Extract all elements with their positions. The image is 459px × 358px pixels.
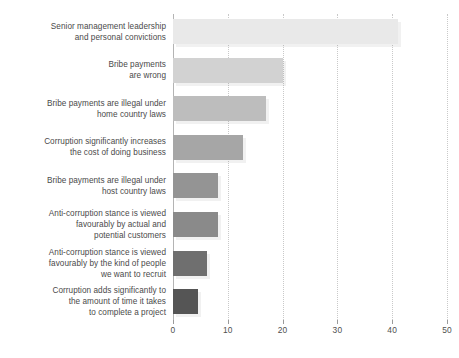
x-axis: 01020304050 [173, 320, 447, 344]
x-tick-mark [228, 320, 229, 324]
category-label: Senior management leadership and persona… [4, 21, 166, 43]
x-tick-label: 10 [223, 325, 233, 335]
bar-row [173, 58, 447, 83]
category-label: Corruption adds significantly to the amo… [4, 285, 166, 318]
bar [173, 58, 283, 83]
category-label: Bribe payments are wrong [4, 59, 166, 81]
bar [173, 251, 207, 276]
bar [173, 96, 266, 121]
bar-row [173, 212, 447, 237]
x-tick-label: 40 [387, 325, 397, 335]
x-tick-label: 20 [278, 325, 288, 335]
x-tick-mark [447, 320, 448, 324]
x-tick-label: 0 [171, 325, 176, 335]
bar-row [173, 173, 447, 198]
category-label: Anti-corruption stance is viewed favoura… [4, 208, 166, 241]
x-tick-label: 30 [333, 325, 343, 335]
bar-row [173, 19, 447, 44]
bar-row [173, 289, 447, 314]
category-label: Corruption significantly increases the c… [4, 136, 166, 158]
x-tick-mark [173, 320, 174, 324]
bar-chart: Senior management leadership and persona… [0, 0, 459, 358]
category-label-column: Senior management leadership and persona… [0, 14, 166, 320]
x-tick-mark [392, 320, 393, 324]
bar [173, 19, 398, 44]
bar-row [173, 135, 447, 160]
category-label: Anti-corruption stance is viewed favoura… [4, 247, 166, 280]
gridline-50 [447, 14, 448, 320]
x-tick-mark [337, 320, 338, 324]
category-label: Bribe payments are illegal under host co… [4, 175, 166, 197]
bar [173, 289, 198, 314]
bar [173, 212, 218, 237]
bar [173, 135, 243, 160]
bar [173, 173, 218, 198]
bar-row [173, 251, 447, 276]
plot-area [173, 14, 447, 320]
category-label: Bribe payments are illegal under home co… [4, 98, 166, 120]
x-tick-mark [283, 320, 284, 324]
x-tick-label: 50 [442, 325, 452, 335]
bar-row [173, 96, 447, 121]
